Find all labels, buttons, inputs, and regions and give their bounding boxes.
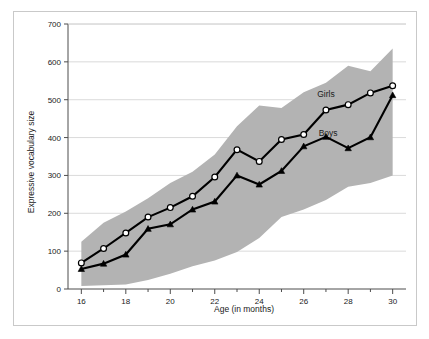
data-point-girls — [78, 260, 84, 266]
x-tick-label: 26 — [299, 297, 308, 306]
y-tick-label: 500 — [48, 96, 62, 105]
y-tick-label: 200 — [48, 209, 62, 218]
y-axis-title: Expressive vocabulary size — [26, 110, 36, 213]
y-tick-label: 100 — [48, 247, 62, 256]
data-point-girls — [279, 137, 285, 143]
x-tick-label: 30 — [388, 297, 397, 306]
series-label-girls: Girls — [317, 89, 334, 99]
data-point-girls — [101, 246, 107, 252]
y-tick-label: 400 — [48, 134, 62, 143]
data-point-girls — [190, 193, 196, 199]
x-tick-label: 18 — [121, 297, 130, 306]
data-point-girls — [345, 102, 351, 108]
y-tick-label: 700 — [48, 20, 62, 29]
data-point-girls — [212, 174, 218, 180]
series-label-boys: Boys — [319, 128, 338, 138]
y-tick-label: 0 — [57, 285, 62, 294]
x-axis-title: Age (in months) — [214, 304, 274, 314]
data-point-girls — [145, 214, 151, 220]
data-point-girls — [323, 107, 329, 113]
x-tick-label: 28 — [344, 297, 353, 306]
y-tick-label: 600 — [48, 58, 62, 67]
figure-frame: 0100200300400500600700 1618202224262830 … — [13, 11, 417, 326]
x-tick-label: 20 — [166, 297, 175, 306]
y-tick-label: 300 — [48, 171, 62, 180]
data-point-girls — [167, 205, 173, 211]
data-point-girls — [234, 147, 240, 153]
y-axis-tick-labels: 0100200300400500600700 — [48, 20, 62, 294]
data-point-girls — [390, 83, 396, 89]
data-point-girls — [368, 90, 374, 96]
vocabulary-growth-chart: 0100200300400500600700 1618202224262830 … — [14, 12, 418, 327]
data-point-girls — [123, 230, 129, 236]
data-point-girls — [301, 132, 307, 138]
range-band-area — [81, 49, 392, 286]
x-tick-label: 16 — [77, 297, 86, 306]
data-point-girls — [256, 159, 262, 165]
range-band — [81, 49, 392, 286]
